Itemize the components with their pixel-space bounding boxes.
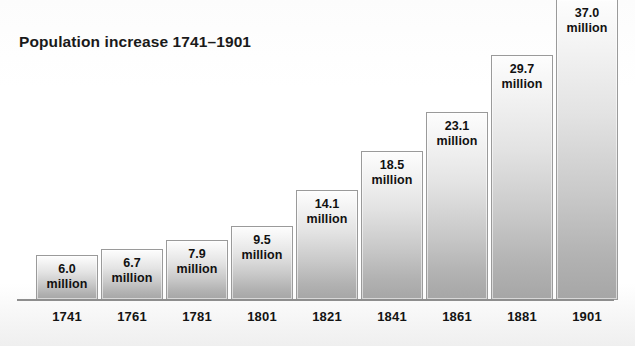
bar-value-label: 29.7 million <box>492 62 552 91</box>
bar-group: 14.1 million 1821 <box>296 190 358 300</box>
bar[interactable]: 18.5 million <box>361 151 423 300</box>
bar-value-number: 14.1 <box>315 197 340 211</box>
bar-value-label: 6.0 million <box>37 262 97 291</box>
x-axis-tick-label: 1901 <box>556 309 618 324</box>
bar-group: 7.9 million 1781 <box>166 240 228 300</box>
bar[interactable]: 6.0 million <box>36 255 98 300</box>
x-axis-tick-label: 1761 <box>101 309 163 324</box>
plot-area: 6.0 million 1741 6.7 million 1761 7.9 mi… <box>0 0 635 346</box>
x-axis-tick-label: 1881 <box>491 309 553 324</box>
bar-value-unit: million <box>102 271 162 286</box>
x-axis-tick-label: 1861 <box>426 309 488 324</box>
bar-value-unit: million <box>297 212 357 227</box>
bar-group: 23.1 million 1861 <box>426 112 488 300</box>
bar-value-number: 6.7 <box>123 256 141 270</box>
bar[interactable]: 37.0 million <box>556 0 618 300</box>
bar[interactable]: 7.9 million <box>166 240 228 300</box>
x-axis-tick-label: 1821 <box>296 309 358 324</box>
population-bar-chart: Population increase 1741–1901 6.0 millio… <box>0 0 635 346</box>
bar-value-label: 9.5 million <box>232 233 292 262</box>
bar-group: 18.5 million 1841 <box>361 151 423 300</box>
x-axis-tick-label: 1801 <box>231 309 293 324</box>
bar-value-label: 37.0 million <box>557 6 617 35</box>
bar-value-unit: million <box>362 173 422 188</box>
bar-group: 37.0 million 1901 <box>556 0 618 300</box>
bar[interactable]: 9.5 million <box>231 226 293 300</box>
bar-value-label: 23.1 million <box>427 119 487 148</box>
bar-value-number: 23.1 <box>445 119 470 133</box>
bar-value-number: 6.0 <box>58 262 76 276</box>
bar[interactable]: 29.7 million <box>491 55 553 300</box>
x-axis-tick-label: 1741 <box>36 309 98 324</box>
bar-value-unit: million <box>167 262 227 277</box>
bar-value-unit: million <box>557 21 617 36</box>
bar-value-number: 37.0 <box>575 6 600 20</box>
bar-group: 6.0 million 1741 <box>36 255 98 300</box>
bar-value-unit: million <box>37 277 97 292</box>
bar[interactable]: 23.1 million <box>426 112 488 300</box>
bar-value-unit: million <box>492 77 552 92</box>
bar-value-number: 29.7 <box>510 62 535 76</box>
bar-value-number: 7.9 <box>188 247 206 261</box>
bar-value-label: 14.1 million <box>297 197 357 226</box>
bar-value-number: 18.5 <box>380 158 405 172</box>
x-axis-line <box>17 299 614 301</box>
x-axis-tick-label: 1781 <box>166 309 228 324</box>
bar-value-label: 6.7 million <box>102 256 162 285</box>
bar-group: 29.7 million 1881 <box>491 55 553 300</box>
bar-group: 9.5 million 1801 <box>231 226 293 300</box>
bar-value-label: 7.9 million <box>167 247 227 276</box>
bar-value-unit: million <box>427 134 487 149</box>
bar-value-number: 9.5 <box>253 233 271 247</box>
bar-group: 6.7 million 1761 <box>101 249 163 300</box>
bar[interactable]: 6.7 million <box>101 249 163 300</box>
bar-value-label: 18.5 million <box>362 158 422 187</box>
bar-value-unit: million <box>232 248 292 263</box>
x-axis-tick-label: 1841 <box>361 309 423 324</box>
bar[interactable]: 14.1 million <box>296 190 358 300</box>
